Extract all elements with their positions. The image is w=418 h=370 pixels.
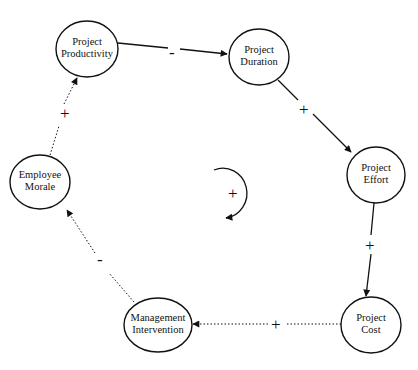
node-label: Employee (19, 169, 62, 180)
polarity-sign: - (169, 43, 175, 62)
polarity-sign: + (271, 315, 281, 334)
node-label: Project (72, 36, 102, 47)
node-label: Project (356, 312, 386, 323)
node-label: Morale (25, 181, 56, 192)
edge-productivity-to-duration: - (118, 43, 227, 62)
polarity-sign: + (365, 236, 375, 255)
node-label: Project (361, 162, 391, 173)
node-project-effort: Project Effort (347, 147, 405, 203)
edge-morale-to-productivity: + (50, 78, 77, 155)
node-label: Effort (364, 174, 389, 185)
node-project-productivity: Project Productivity (56, 21, 118, 77)
polarity-sign: + (299, 100, 309, 119)
node-management-intervention: Management Intervention (124, 298, 192, 352)
node-label: Cost (361, 324, 380, 335)
reinforcing-loop-indicator: + (214, 168, 247, 218)
edge-intervention-to-morale: - (67, 210, 134, 302)
node-label: Duration (240, 56, 278, 67)
node-employee-morale: Employee Morale (10, 155, 70, 209)
causal-loop-diagram: - + + + - + + Project Productivity (0, 0, 418, 370)
edge-cost-to-intervention: + (193, 315, 341, 334)
node-label: Project (244, 44, 274, 55)
node-label: Productivity (61, 48, 114, 59)
polarity-sign: + (60, 104, 70, 123)
node-project-duration: Project Duration (229, 29, 289, 85)
node-label: Intervention (132, 324, 184, 335)
node-project-cost: Project Cost (341, 297, 401, 353)
edge-effort-to-cost: + (365, 203, 375, 296)
node-label: Management (131, 312, 186, 323)
edge-duration-to-effort: + (278, 80, 351, 152)
polarity-sign: - (97, 250, 103, 269)
loop-polarity-sign: + (228, 184, 238, 203)
